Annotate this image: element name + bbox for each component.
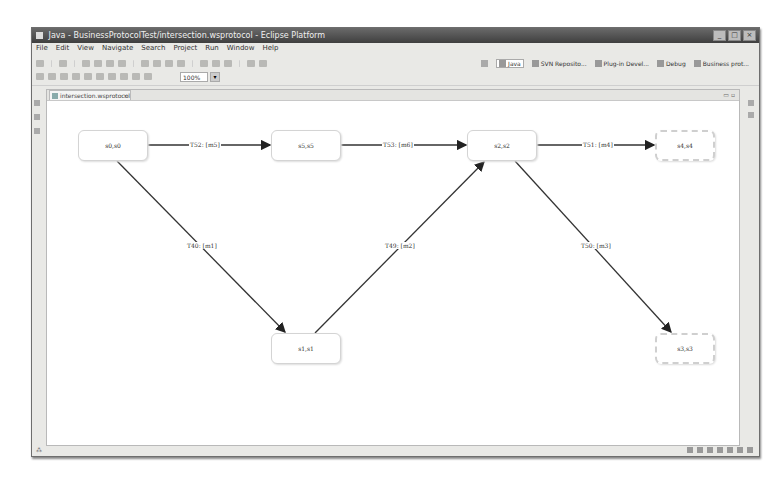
toolbar-row-2: [36, 73, 152, 80]
editor-minmax-controls[interactable]: ▭ ▫: [723, 90, 735, 100]
open-folder-icon[interactable]: [200, 60, 208, 67]
fast-view-icon[interactable]: ⁂: [36, 446, 42, 453]
menu-search[interactable]: Search: [141, 43, 165, 54]
editor-tab-bar: intersection.wsprotocol × ▭ ▫: [47, 90, 739, 101]
close-tab-icon[interactable]: ×: [123, 91, 128, 100]
menu-window[interactable]: Window: [227, 43, 255, 54]
new-java-project-icon[interactable]: [141, 60, 149, 67]
menu-file[interactable]: File: [36, 43, 48, 54]
open-task-icon[interactable]: [212, 60, 220, 67]
search-icon[interactable]: [118, 60, 126, 67]
toolbar-row-1: [36, 60, 267, 67]
new-package-icon[interactable]: [153, 60, 161, 67]
perspective-debug[interactable]: Debug: [657, 60, 686, 67]
eclipse-app-icon: [36, 32, 43, 39]
navigator-icon[interactable]: [34, 128, 40, 134]
diagram-canvas[interactable]: s0,s0 s5,s5 s2,s2 s4,s4 s1,s1 s3,s3 T52:…: [47, 101, 739, 445]
new-icon[interactable]: [36, 60, 44, 67]
right-trim-bar: [748, 100, 756, 118]
status-bar: ⁂: [32, 444, 759, 456]
menu-help[interactable]: Help: [262, 43, 278, 54]
toolbar-separator: [74, 60, 75, 67]
debug-perspective-icon: [657, 60, 664, 67]
tray-icon-4[interactable]: [717, 447, 723, 453]
protocol-file-icon: [52, 93, 58, 99]
tray-icon-5[interactable]: [727, 447, 733, 453]
tray-icon-1[interactable]: [687, 447, 693, 453]
perspective-java[interactable]: Java: [496, 59, 524, 68]
zoom-level-select[interactable]: 100%: [180, 72, 208, 82]
match-width-icon[interactable]: [108, 73, 116, 80]
align-left-icon[interactable]: [36, 73, 44, 80]
java-perspective-icon: [499, 60, 506, 67]
open-type-icon[interactable]: [177, 60, 185, 67]
package-explorer-icon[interactable]: [34, 100, 40, 106]
external-tools-icon[interactable]: [106, 60, 114, 67]
menu-bar: File Edit View Navigate Search Project R…: [32, 43, 759, 54]
close-button[interactable]: ×: [743, 30, 756, 41]
menu-view[interactable]: View: [77, 43, 94, 54]
left-trim-bar: [34, 100, 42, 134]
status-tray: [687, 447, 753, 453]
edge-label-t51[interactable]: T51: [m4]: [582, 141, 614, 148]
state-node-s2[interactable]: s2,s2: [467, 130, 537, 161]
annotation-icon[interactable]: [224, 60, 232, 67]
window-title: Java - BusinessProtocolTest/intersection…: [49, 31, 326, 40]
state-node-s0[interactable]: s0,s0: [78, 130, 148, 161]
menu-run[interactable]: Run: [205, 43, 218, 54]
toolbar-separator: [133, 60, 134, 67]
eclipse-window: Java - BusinessProtocolTest/intersection…: [31, 27, 760, 457]
task-list-icon[interactable]: [748, 112, 754, 118]
perspective-switcher: Java SVN Reposito... Plug-in Devel... De…: [481, 59, 749, 68]
align-middle-icon[interactable]: [84, 73, 92, 80]
layout-icon[interactable]: [132, 73, 140, 80]
maximize-button[interactable]: □: [728, 30, 741, 41]
main-toolbar: 100% ▾ Java SVN Reposito... Plug-in Deve…: [32, 55, 759, 86]
tray-icon-2[interactable]: [697, 447, 703, 453]
save-icon[interactable]: [59, 60, 67, 67]
tray-icon-3[interactable]: [707, 447, 713, 453]
toolbar-separator: [192, 60, 193, 67]
forward-icon[interactable]: [259, 60, 267, 67]
tab-intersection-wsprotocol[interactable]: intersection.wsprotocol ×: [49, 90, 131, 100]
open-perspective-icon[interactable]: [481, 60, 488, 67]
perspective-plugin-dev[interactable]: Plug-in Devel...: [595, 60, 649, 67]
new-class-icon[interactable]: [165, 60, 173, 67]
edge-label-t53[interactable]: T53: [m6]: [382, 141, 414, 148]
back-icon[interactable]: [247, 60, 255, 67]
run-icon[interactable]: [94, 60, 102, 67]
align-center-icon[interactable]: [48, 73, 56, 80]
menu-project[interactable]: Project: [173, 43, 197, 54]
tray-icon-7[interactable]: [747, 447, 753, 453]
match-height-icon[interactable]: [120, 73, 128, 80]
business-protocol-perspective-icon: [694, 60, 701, 67]
perspective-business-protocol[interactable]: Business prot...: [694, 60, 749, 67]
align-bottom-icon[interactable]: [96, 73, 104, 80]
tray-icon-6[interactable]: [737, 447, 743, 453]
hierarchy-icon[interactable]: [34, 114, 40, 120]
title-bar: Java - BusinessProtocolTest/intersection…: [32, 28, 759, 43]
edge-label-t50[interactable]: T50: [m3]: [580, 242, 612, 249]
final-state-node-s4[interactable]: s4,s4: [655, 130, 715, 161]
state-node-s5[interactable]: s5,s5: [271, 130, 341, 161]
grid-icon[interactable]: [144, 73, 152, 80]
minimize-button[interactable]: _: [713, 30, 726, 41]
toolbar-separator: [239, 60, 240, 67]
chevron-down-icon[interactable]: ▾: [210, 72, 220, 82]
edge-label-t49[interactable]: T49: [m2]: [384, 242, 416, 249]
menu-edit[interactable]: Edit: [56, 43, 70, 54]
plugin-perspective-icon: [595, 60, 602, 67]
align-right-icon[interactable]: [60, 73, 68, 80]
protocol-editor: intersection.wsprotocol × ▭ ▫ s0,s0: [46, 89, 740, 446]
menu-navigate[interactable]: Navigate: [102, 43, 133, 54]
align-top-icon[interactable]: [72, 73, 80, 80]
svn-perspective-icon: [532, 60, 539, 67]
perspective-svn[interactable]: SVN Reposito...: [532, 60, 587, 67]
edge-label-t40[interactable]: T40: [m1]: [186, 242, 218, 249]
final-state-node-s3[interactable]: s3,s3: [655, 333, 715, 364]
diagram-edges: [47, 101, 739, 445]
state-node-s1[interactable]: s1,s1: [271, 333, 341, 364]
edge-label-t52[interactable]: T52: [m5]: [189, 141, 221, 148]
debug-icon[interactable]: [82, 60, 90, 67]
outline-icon[interactable]: [748, 100, 754, 106]
